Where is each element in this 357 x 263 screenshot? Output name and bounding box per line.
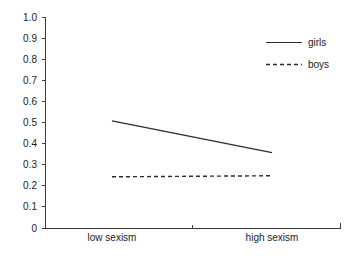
- x-tick-label-high-sexism: high sexism: [246, 232, 299, 243]
- y-tick-label-0.7: 0.7: [23, 75, 37, 86]
- legend-item-girls: girls: [266, 37, 326, 48]
- series-boys: [112, 176, 272, 177]
- series-line-boys: [112, 176, 272, 177]
- y-tick-label-1.0: 1.0: [23, 12, 37, 23]
- legend-item-boys: boys: [266, 59, 329, 70]
- y-tick-label-0.6: 0.6: [23, 96, 37, 107]
- y-tick-label-0: 0: [31, 223, 37, 234]
- y-tick-label-0.8: 0.8: [23, 54, 37, 65]
- legend-label-boys: boys: [308, 59, 329, 70]
- y-tick-label-0.5: 0.5: [23, 117, 37, 128]
- y-axis: 1.0 0.9 0.8 0.7 0.6 0.5 0.4 0.3 0.2 0.1 …: [23, 12, 45, 234]
- y-tick-label-0.1: 0.1: [23, 201, 37, 212]
- series-girls: [112, 121, 272, 153]
- x-tick-label-low-sexism: low sexism: [88, 232, 137, 243]
- x-axis: low sexism high sexism: [46, 223, 341, 244]
- legend: girls boys: [266, 37, 329, 70]
- y-tick-label-0.9: 0.9: [23, 33, 37, 44]
- y-tick-label-0.3: 0.3: [23, 159, 37, 170]
- chart-screenshot: 1.0 0.9 0.8 0.7 0.6 0.5 0.4 0.3 0.2 0.1 …: [0, 0, 357, 263]
- series-line-girls: [112, 121, 272, 153]
- y-tick-label-0.4: 0.4: [23, 138, 37, 149]
- line-chart: 1.0 0.9 0.8 0.7 0.6 0.5 0.4 0.3 0.2 0.1 …: [0, 0, 357, 263]
- y-tick-label-0.2: 0.2: [23, 180, 37, 191]
- legend-label-girls: girls: [308, 37, 326, 48]
